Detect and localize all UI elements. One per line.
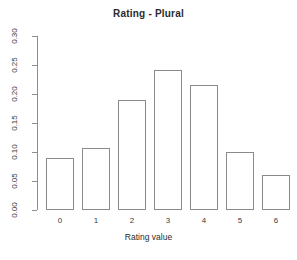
bar: [190, 85, 218, 210]
bar: [118, 100, 146, 210]
x-axis-title: Rating value: [0, 232, 297, 242]
y-axis-tick: [32, 210, 37, 211]
y-axis-tick-label-text: 0.15: [10, 108, 20, 138]
x-axis-tick-label: 5: [226, 216, 254, 225]
bar: [154, 70, 182, 210]
x-axis-tick-label: 3: [154, 216, 182, 225]
y-axis-tick-label-text: 0.30: [10, 21, 20, 51]
y-axis-tick-label-text: 0.00: [10, 195, 20, 225]
x-axis-tick-label: 2: [118, 216, 146, 225]
y-axis-tick-label-text: 0.05: [10, 166, 20, 196]
x-axis-tick-label: 6: [262, 216, 290, 225]
bar: [226, 152, 254, 210]
bar: [262, 175, 290, 210]
bar: [46, 158, 74, 210]
bar: [82, 148, 110, 210]
chart-figure: Rating - Plural 0.000.050.100.150.200.25…: [0, 0, 297, 260]
x-axis-tick-label: 1: [82, 216, 110, 225]
chart-title: Rating - Plural: [0, 8, 297, 19]
x-axis-tick-label: 0: [46, 216, 74, 225]
y-axis-tick-label-text: 0.10: [10, 137, 20, 167]
y-axis-tick-label-text: 0.25: [10, 50, 20, 80]
x-axis-tick-label: 4: [190, 216, 218, 225]
y-axis-tick-label-text: 0.20: [10, 79, 20, 109]
plot-area: [37, 36, 289, 210]
